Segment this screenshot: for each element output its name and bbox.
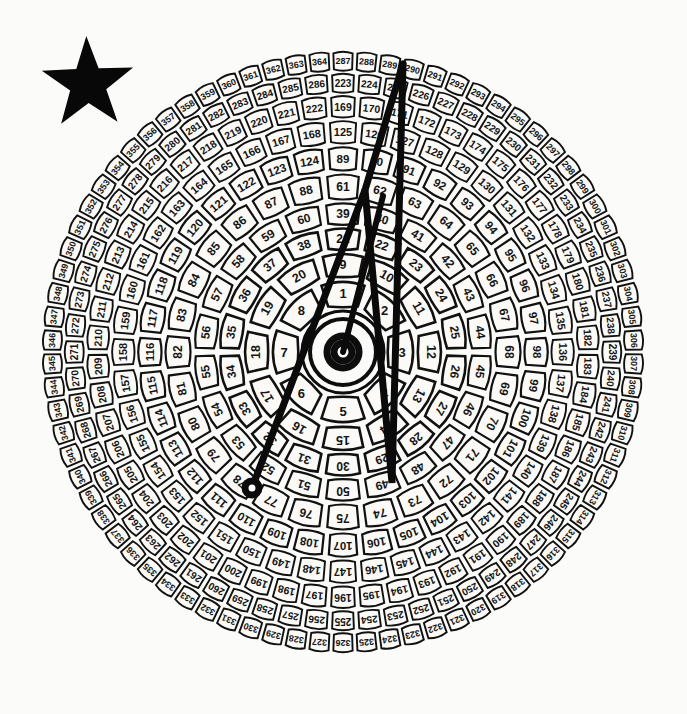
dial-cell[interactable]: 208 [90, 382, 112, 408]
dial-cell[interactable]: 258 [252, 598, 277, 619]
dial-cell[interactable]: 82 [165, 336, 190, 368]
dial-cell[interactable]: 236 [589, 261, 610, 286]
dial-cell[interactable]: 69 [490, 373, 517, 407]
dial-cell[interactable]: 307 [624, 354, 643, 373]
dial-cell[interactable]: 135 [549, 306, 572, 334]
dial-cell[interactable]: 149 [266, 550, 295, 575]
dial-cell[interactable]: 157 [114, 370, 137, 398]
dial-cell[interactable]: 181 [573, 296, 595, 322]
dial-cell[interactable]: 306 [624, 330, 643, 349]
dial-cell[interactable]: 223 [332, 74, 354, 93]
dial-cell[interactable]: 148 [297, 558, 325, 581]
dial-cell[interactable]: 160 [120, 275, 145, 304]
dial-cell[interactable]: 207 [96, 409, 120, 436]
dial-cell[interactable]: 252 [409, 598, 434, 619]
dial-cell[interactable]: 18 [245, 332, 268, 372]
dial-cell[interactable]: 224 [358, 75, 381, 94]
dial-cell[interactable]: 305 [622, 306, 641, 327]
dial-cell[interactable]: 30 [326, 454, 360, 475]
dial-cell[interactable]: 323 [402, 624, 424, 644]
dial-cell[interactable]: 345 [43, 354, 62, 373]
dial-cell[interactable]: 287 [333, 52, 352, 71]
dial-cell[interactable]: 212 [96, 268, 120, 295]
dial-cell[interactable]: 342 [53, 422, 74, 444]
dial-cell[interactable]: 194 [387, 579, 413, 602]
dial-cell[interactable]: 67 [490, 298, 517, 332]
dial-cell[interactable]: 184 [573, 382, 595, 408]
dial-cell[interactable]: 361 [239, 66, 262, 87]
dial-cell[interactable]: 98 [524, 338, 547, 366]
dial-cell[interactable]: 291 [424, 66, 447, 87]
dial-cell[interactable]: 226 [409, 84, 434, 105]
dial-cell[interactable]: 303 [612, 260, 633, 282]
dial-cell[interactable]: 308 [622, 377, 641, 398]
dial-cell[interactable]: 35 [220, 314, 244, 348]
dial-cell[interactable]: 256 [305, 610, 328, 629]
dial-cell[interactable]: 363 [286, 55, 307, 75]
dial-cell[interactable]: 210 [87, 325, 109, 349]
dial-cell[interactable]: 270 [66, 367, 85, 390]
dial-cell[interactable]: 34 [220, 356, 244, 390]
dial-cell[interactable]: 242 [589, 418, 610, 443]
overlay-terminal-dot[interactable] [245, 481, 259, 495]
dial-cell[interactable]: 196 [331, 586, 355, 608]
dial-cell[interactable]: 274 [75, 261, 96, 286]
dial-cell[interactable]: 330 [239, 617, 262, 638]
dial-cell[interactable]: 209 [87, 355, 109, 379]
dial-cell[interactable]: 183 [577, 355, 599, 379]
dial-cell[interactable]: 97 [521, 303, 545, 333]
dial-cell[interactable]: 347 [45, 306, 64, 327]
dial-cell[interactable]: 211 [90, 296, 112, 322]
dial-cell[interactable]: 3 [388, 331, 413, 374]
dial-cell[interactable]: 137 [549, 370, 572, 398]
dial-cell[interactable]: 304 [618, 283, 638, 305]
dial-cell[interactable]: 272 [66, 314, 85, 337]
dial-cell[interactable]: 81 [169, 373, 196, 407]
dial-cell[interactable]: 180 [566, 268, 590, 295]
dial-cell[interactable]: 45 [468, 356, 491, 390]
dial-cell[interactable]: 328 [286, 629, 307, 649]
dial-cell[interactable]: 349 [53, 260, 74, 282]
dial-cell[interactable]: 108 [294, 530, 324, 554]
dial-cell[interactable]: 253 [384, 606, 408, 626]
dial-cell[interactable]: 343 [48, 400, 68, 422]
dial-cell[interactable]: 198 [273, 579, 299, 602]
dial-cell[interactable]: 74 [364, 499, 398, 526]
dial-cell[interactable]: 348 [48, 283, 68, 305]
dial-cell[interactable]: 268 [75, 418, 96, 443]
dial-cell[interactable]: 44 [468, 315, 491, 349]
dial-cell[interactable]: 167 [266, 129, 295, 154]
dial-cell[interactable]: 324 [379, 629, 400, 649]
dial-cell[interactable]: 326 [333, 633, 352, 652]
dial-cell[interactable]: 89 [329, 147, 357, 170]
dial-cell[interactable]: 75 [327, 505, 359, 530]
dial-cell[interactable]: 185 [566, 409, 590, 436]
dial-cell[interactable]: 221 [273, 102, 299, 125]
dial-cell[interactable]: 309 [618, 400, 638, 422]
dial-cell[interactable]: 182 [577, 325, 599, 349]
dial-cell[interactable]: 241 [597, 393, 617, 417]
dial-cell[interactable]: 138 [541, 400, 566, 429]
dial-cell[interactable]: 346 [43, 330, 62, 349]
dial-cell[interactable]: 61 [327, 174, 359, 199]
dial-cell[interactable]: 124 [294, 150, 324, 174]
dial-cell[interactable]: 115 [141, 371, 165, 401]
dial-cell[interactable]: 239 [602, 341, 621, 363]
dial-cell[interactable]: 146 [361, 558, 389, 581]
dial-cell[interactable]: 5 [322, 397, 365, 422]
dial-cell[interactable]: 12 [418, 332, 441, 372]
dial-cell[interactable]: 255 [332, 611, 354, 630]
dial-cell[interactable]: 327 [309, 632, 329, 651]
dial-cell[interactable]: 254 [358, 610, 381, 629]
dial-cell[interactable]: 329 [262, 624, 284, 644]
dial-cell[interactable]: 271 [65, 341, 84, 363]
dial-cell[interactable]: 25 [442, 314, 466, 348]
dial-cell[interactable]: 145 [391, 550, 420, 575]
dial-cell[interactable]: 288 [357, 53, 377, 72]
dial-cell[interactable]: 76 [289, 499, 323, 526]
dial-cell[interactable]: 237 [597, 287, 617, 311]
dial-cell[interactable]: 197 [302, 585, 327, 607]
dial-cell[interactable]: 285 [278, 78, 302, 98]
dial-cell[interactable]: 134 [541, 275, 566, 304]
dial-cell[interactable]: 15 [323, 427, 363, 450]
